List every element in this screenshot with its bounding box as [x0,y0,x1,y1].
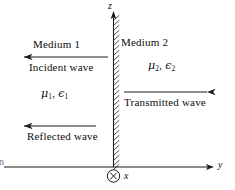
y-axis [4,164,214,170]
interface-hatched-line [114,16,119,170]
medium-2-parameters: μ2, ϵ2 [148,60,176,72]
incident-wave-label: Incident wave [29,62,94,73]
circle-x-icon [107,170,119,182]
z-axis-label: z [108,1,112,11]
epsilon-2-subscript: 2 [172,64,176,73]
epsilon-1-subscript: 1 [65,92,69,101]
reflected-wave-label: Reflected wave [27,131,98,142]
diagram-vector-layer [0,0,235,190]
y-axis-label: y [218,160,223,170]
x-axis-label: x [124,171,129,181]
medium-1-title: Medium 1 [33,39,80,50]
medium-1-parameters: μ1, ϵ1 [41,88,69,100]
transmitted-wave-label: Transmitted wave [124,97,206,108]
edge-text-fragment: n [0,157,4,167]
wave-interface-diagram: z y x n Medium 1 Incident wave μ1, ϵ1 Re… [0,0,235,190]
medium-2-title: Medium 2 [121,37,168,48]
